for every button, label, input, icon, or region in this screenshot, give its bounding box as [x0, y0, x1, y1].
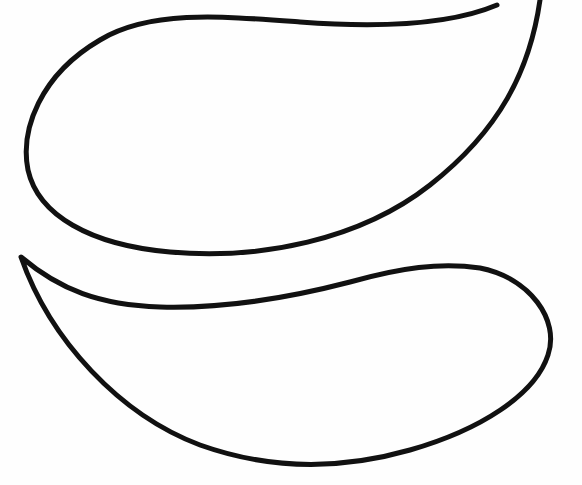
drawing-canvas — [0, 0, 582, 485]
upper-paisley-shape — [26, 0, 540, 254]
paisley-drawing — [0, 0, 582, 485]
lower-paisley-shape — [21, 257, 551, 464]
